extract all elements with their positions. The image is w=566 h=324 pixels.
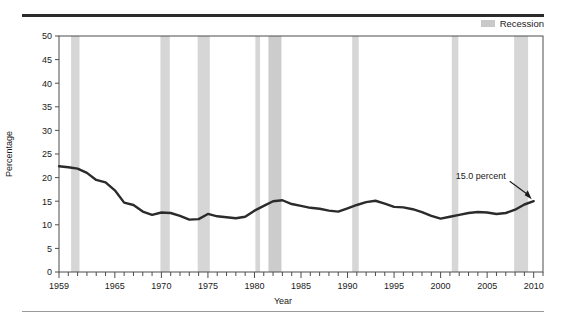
poverty-rate-figure: Recession 051015202530354045501959196519… <box>0 0 566 324</box>
y-tick-label: 5 <box>47 244 52 254</box>
recession-band <box>198 36 210 272</box>
chart-plot-area: 0510152025303540455019591965197019751980… <box>0 0 566 300</box>
x-tick-label: 1990 <box>338 281 358 291</box>
x-tick-label: 1970 <box>151 281 171 291</box>
x-axis: 1959196519701975198019851990199520002005… <box>49 272 544 291</box>
x-tick-label: 2010 <box>524 281 544 291</box>
y-tick-label: 45 <box>42 55 52 65</box>
y-tick-label: 40 <box>42 79 52 89</box>
y-tick-label: 25 <box>42 149 52 159</box>
recession-band <box>352 36 359 272</box>
y-tick-label: 35 <box>42 102 52 112</box>
y-axis-title: Percentage <box>2 36 16 272</box>
x-tick-label: 1959 <box>49 281 69 291</box>
y-tick-label: 30 <box>42 126 52 136</box>
x-axis-title: Year <box>0 296 566 306</box>
annotation-label: 15.0 percent <box>456 171 507 181</box>
y-tick-label: 50 <box>42 31 52 41</box>
x-tick-label: 1995 <box>384 281 404 291</box>
y-tick-label: 0 <box>47 267 52 277</box>
bottom-divider-rule <box>22 311 544 312</box>
x-tick-label: 1980 <box>244 281 264 291</box>
recession-band <box>514 36 528 272</box>
plot-frame <box>59 36 543 272</box>
y-axis: 05101520253035404550 <box>42 31 59 277</box>
x-tick-label: 1985 <box>291 281 311 291</box>
y-tick-label: 10 <box>42 220 52 230</box>
x-tick-label: 2005 <box>477 281 497 291</box>
recession-band <box>255 36 260 272</box>
recession-band <box>160 36 169 272</box>
recession-band <box>452 36 459 272</box>
x-tick-label: 1975 <box>198 281 218 291</box>
y-tick-label: 15 <box>42 197 52 207</box>
recession-bands <box>71 36 528 272</box>
recession-band <box>268 36 281 272</box>
recession-band <box>71 36 79 272</box>
x-tick-label: 2000 <box>431 281 451 291</box>
y-tick-label: 20 <box>42 173 52 183</box>
x-tick-label: 1965 <box>105 281 125 291</box>
